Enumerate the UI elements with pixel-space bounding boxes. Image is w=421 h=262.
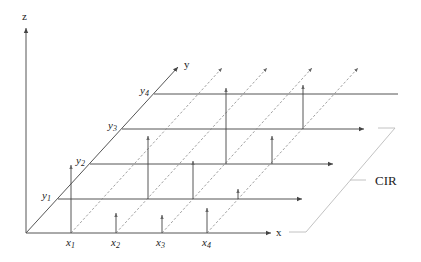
y-tick-4: y4 [139, 84, 149, 98]
y-tick-labels: y1 y2 y3 y4 [41, 84, 149, 203]
x-tick-1: x1 [65, 236, 75, 250]
cir-diagram: z x y [0, 0, 421, 262]
x-axis-label: x [276, 226, 282, 238]
y-axis: y [26, 58, 190, 233]
impulse-arrows [71, 85, 303, 233]
row-lines [58, 94, 398, 199]
cir-label: CIR [375, 173, 397, 188]
dashed-diagonals [71, 68, 358, 233]
z-axis-label: z [22, 10, 27, 22]
y-tick-1: y1 [41, 189, 51, 203]
y-axis-label: y [184, 58, 190, 70]
x-tick-4: x4 [201, 236, 211, 250]
z-axis: z [22, 10, 27, 233]
x-tick-2: x2 [110, 236, 120, 250]
x-tick-3: x3 [155, 236, 165, 250]
x-axis: x [26, 226, 282, 238]
y-tick-2: y2 [75, 154, 85, 168]
x-tick-labels: x1 x2 x3 x4 [65, 236, 211, 250]
y-tick-3: y3 [107, 119, 117, 133]
